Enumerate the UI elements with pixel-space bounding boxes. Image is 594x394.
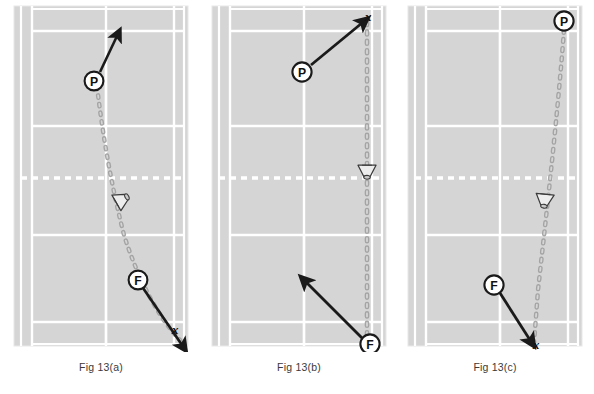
player-marker-c: P: [554, 11, 573, 30]
player-label-c: P: [560, 15, 568, 29]
court-diagram-a: P F x: [12, 0, 190, 352]
landing-mark-b: x: [364, 9, 372, 24]
panel-fig-13a: P F x Fig 13(a): [12, 0, 190, 394]
player-marker-b: P: [292, 62, 311, 81]
player-marker-a: P: [85, 72, 104, 91]
player-label-b: P: [298, 66, 306, 80]
feeder-marker-c: F: [484, 275, 503, 294]
feeder-marker-b: F: [360, 334, 379, 352]
court-diagram-b: P F x: [210, 0, 388, 352]
caption-fig-13b: Fig 13(b): [210, 361, 388, 373]
landing-mark-a: x: [171, 322, 179, 337]
court-diagram-c: P F x: [406, 0, 584, 352]
caption-fig-13a: Fig 13(a): [12, 361, 190, 373]
feeder-label-b: F: [366, 338, 373, 352]
caption-fig-13c: Fig 13(c): [406, 361, 584, 373]
court-surface: [212, 6, 386, 346]
feeder-label-a: F: [134, 274, 141, 288]
feeder-label-c: F: [490, 279, 497, 293]
panel-fig-13c: P F x Fig 13(c): [406, 0, 584, 394]
feeder-marker-a: F: [129, 271, 148, 290]
court-surface: [14, 6, 188, 346]
landing-mark-c: x: [532, 337, 540, 352]
figure-root: P F x Fig 13(a): [0, 0, 594, 394]
panel-fig-13b: P F x Fig 13(b): [210, 0, 388, 394]
player-label-a: P: [90, 75, 98, 89]
